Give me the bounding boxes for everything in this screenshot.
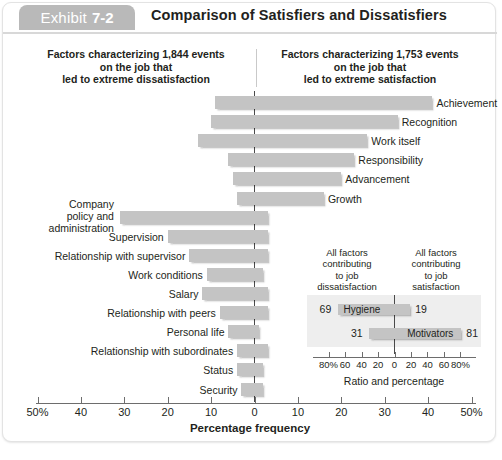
x-axis-tick — [472, 397, 473, 403]
inset-x-axis-tick — [411, 352, 412, 357]
inset-x-axis-line — [313, 357, 476, 358]
x-axis-tick — [211, 397, 212, 403]
bar-label: Responsibility — [358, 154, 423, 166]
chart-bar — [228, 153, 354, 166]
chart-bar — [189, 249, 267, 262]
chart-bar — [237, 192, 324, 205]
inset-x-axis-tick-label: 80% — [445, 359, 475, 370]
exhibit-screenshot: Exhibit 7-2 Comparison of Satisfiers and… — [0, 0, 502, 460]
exhibit-card: Exhibit 7-2 Comparison of Satisfiers and… — [2, 2, 496, 442]
x-axis-tick-label: 0 — [235, 406, 275, 418]
x-axis-tick-label: 10 — [191, 406, 231, 418]
x-axis-tick-label: 40 — [408, 406, 448, 418]
x-axis-tick-label: 30 — [365, 406, 405, 418]
bar-label: Relationship with peers — [107, 307, 216, 319]
inset-bar-left-value: 31 — [351, 327, 363, 339]
inset-bar-right-value: 19 — [415, 303, 427, 315]
inset-caption-satisfaction: All factors contributing to job satisfac… — [396, 247, 476, 293]
x-axis-tick — [168, 397, 169, 403]
chart-bar — [207, 268, 263, 281]
x-axis-tick-label: 40 — [61, 406, 101, 418]
chart-bar — [228, 325, 258, 338]
x-axis-tick — [385, 397, 386, 403]
inset-bar: Motivators — [369, 328, 461, 339]
inset-caption-right-line-1: All factors — [396, 247, 476, 258]
inset-x-axis-tick — [362, 352, 363, 357]
x-axis-tick — [81, 397, 82, 403]
bar-label-line: policy and — [22, 210, 114, 222]
x-axis-tick — [124, 397, 125, 403]
chart-bar — [237, 363, 263, 376]
inset-x-axis-tick — [329, 352, 330, 357]
inset-x-axis-tick — [378, 352, 379, 357]
bar-label: Recognition — [402, 116, 457, 128]
inset-x-axis-tick — [444, 352, 445, 357]
x-axis-tick-label: 30 — [104, 406, 144, 418]
inset-bar-label: Hygiene — [344, 304, 381, 315]
bar-label: Salary — [169, 288, 199, 300]
x-axis-tick-label: 20 — [148, 406, 188, 418]
bar-label: Work conditions — [128, 269, 203, 281]
bar-label: Advancement — [345, 173, 409, 185]
inset-x-axis-tick — [395, 352, 396, 357]
inset-x-axis-tick — [427, 352, 428, 357]
inset-caption-left-line-3: to job — [307, 270, 387, 281]
inset-bar-left-value: 69 — [320, 303, 332, 315]
bar-label: Security — [200, 384, 238, 396]
chart-bar — [211, 115, 398, 128]
x-axis-tick — [38, 397, 39, 403]
bar-label: Supervision — [109, 231, 164, 243]
bar-label: Status — [203, 364, 233, 376]
x-axis-title: Percentage frequency — [3, 422, 497, 434]
x-axis-tick-label: 20 — [321, 406, 361, 418]
bar-label-line: Company — [22, 198, 114, 210]
bar-label: Relationship with subordinates — [91, 345, 233, 357]
bar-label: Achievement — [436, 97, 497, 109]
inset-x-axis-title: Ratio and percentage — [303, 375, 485, 387]
x-axis-tick-label: 50% — [18, 406, 58, 418]
chart-bar — [120, 211, 268, 224]
inset-ratio-chart: All factors contributing to job dissatis… — [303, 247, 485, 395]
x-axis-tick-label: 50% — [452, 406, 492, 418]
x-axis-tick — [341, 397, 342, 403]
x-axis-tick — [298, 397, 299, 403]
inset-x-axis-tick — [345, 352, 346, 357]
inset-bar-label: Motivators — [407, 328, 453, 339]
inset-caption-left-line-4: dissatisfaction — [307, 281, 387, 292]
inset-x-axis-tick — [460, 352, 461, 357]
inset-caption-right-line-4: satisfaction — [396, 281, 476, 292]
inset-caption-left-line-2: contributing — [307, 258, 387, 269]
bar-label-line: administration — [22, 222, 114, 234]
chart-bar — [237, 344, 267, 357]
bar-label: Personal life — [167, 326, 225, 338]
x-axis-tick-label: 10 — [278, 406, 318, 418]
chart-bar — [233, 172, 342, 185]
x-axis-line — [36, 403, 476, 404]
x-axis-tick — [255, 397, 256, 403]
inset-bar-right-value: 81 — [466, 327, 478, 339]
inset-caption-dissatisfaction: All factors contributing to job dissatis… — [307, 247, 387, 293]
chart-bar — [202, 287, 267, 300]
inset-caption-right-line-3: to job — [396, 270, 476, 281]
bar-label: Growth — [328, 193, 362, 205]
chart-bar — [220, 306, 268, 319]
inset-caption-right-line-2: contributing — [396, 258, 476, 269]
bar-label: Relationship with supervisor — [55, 250, 186, 262]
chart-bar — [241, 383, 263, 396]
inset-bar: Hygiene — [338, 304, 411, 315]
chart-bar — [198, 134, 367, 147]
inset-caption-left-line-1: All factors — [307, 247, 387, 258]
x-axis-tick — [428, 397, 429, 403]
chart-bar — [168, 230, 268, 243]
bar-label: Work itself — [371, 135, 420, 147]
bar-label: Companypolicy andadministration — [22, 198, 114, 235]
chart-bar — [215, 96, 432, 109]
